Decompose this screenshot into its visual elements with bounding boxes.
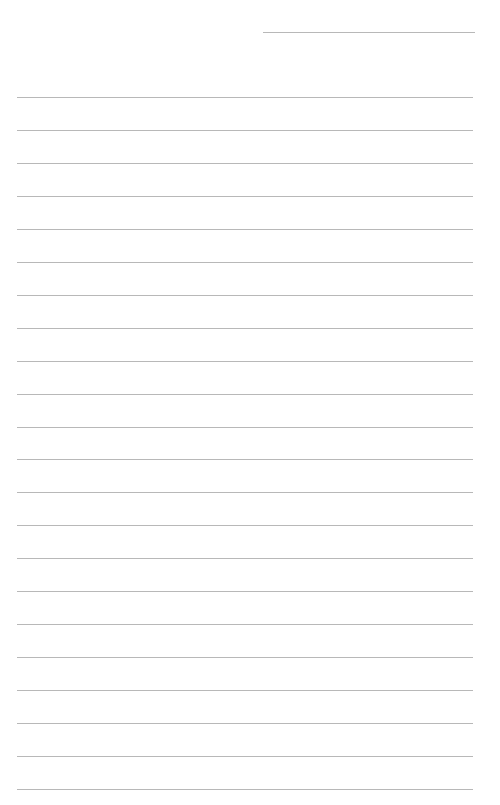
ruled-line [17, 130, 473, 131]
ruled-line [17, 394, 473, 395]
ruled-line [17, 756, 473, 757]
ruled-line [17, 163, 473, 164]
ruled-line [17, 525, 473, 526]
ruled-line [17, 657, 473, 658]
ruled-line [17, 459, 473, 460]
ruled-line [17, 690, 473, 691]
ruled-line [17, 328, 473, 329]
ruled-line [17, 196, 473, 197]
ruled-line [17, 361, 473, 362]
ruled-line [17, 723, 473, 724]
ruled-line [17, 492, 473, 493]
ruled-line [17, 789, 473, 790]
ruled-line [17, 427, 473, 428]
ruled-line [17, 591, 473, 592]
ruled-line [17, 229, 473, 230]
ruled-line [17, 295, 473, 296]
ruled-line [17, 97, 473, 98]
ruled-line [17, 558, 473, 559]
ruled-line [17, 262, 473, 263]
header-date-line [263, 32, 475, 33]
ruled-line [17, 624, 473, 625]
